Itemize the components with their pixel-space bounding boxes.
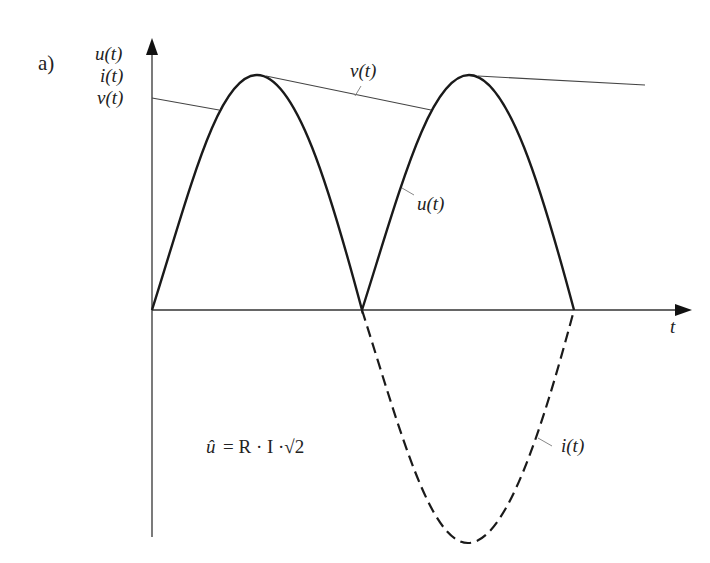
amplitude-formula: û = R · I ·√2 [206,436,304,457]
formula-lhs: û [206,436,216,457]
rectifier-waveform-diagram: a) u(t) i(t) v(t) t v(t) u(t) [0,0,710,563]
y-axis-arrow-icon [146,38,158,55]
i-curve [362,310,574,543]
u-curve [152,75,574,310]
v-curve-label: v(t) [350,60,376,82]
x-axis-label: t [670,316,676,337]
panel-label: a) [38,51,54,75]
x-axis-arrow-icon [675,304,692,316]
y-axis-label-v: v(t) [97,87,123,109]
y-axis [146,38,158,537]
u-label-leader [402,188,414,195]
i-curve-label: i(t) [561,435,584,457]
x-axis [152,304,692,316]
y-axis-label-i: i(t) [100,65,123,87]
u-curve-label: u(t) [417,193,444,215]
formula-rhs: = R · I ·√2 [223,436,304,457]
v-curve [152,76,645,110]
y-axis-label-u: u(t) [95,43,122,65]
i-label-leader [538,438,552,446]
